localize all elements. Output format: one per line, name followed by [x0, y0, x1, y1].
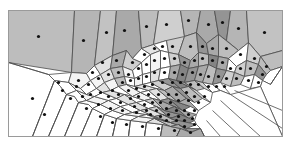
- site-point: [117, 93, 120, 96]
- site-point: [211, 59, 214, 62]
- site-point: [99, 115, 102, 118]
- voronoi-cell: [9, 11, 75, 73]
- voronoi-cell: [145, 123, 163, 137]
- site-point: [193, 59, 196, 62]
- site-point: [143, 53, 146, 56]
- site-point: [151, 83, 154, 86]
- site-point: [187, 99, 190, 102]
- site-point: [197, 101, 200, 104]
- site-point: [237, 27, 240, 30]
- site-point: [145, 75, 148, 78]
- site-point: [165, 23, 168, 26]
- site-point: [149, 113, 152, 116]
- site-point: [161, 81, 164, 84]
- site-point: [253, 57, 256, 60]
- site-point: [147, 93, 150, 96]
- site-point: [173, 129, 176, 132]
- site-point: [193, 95, 196, 98]
- site-point: [97, 103, 100, 106]
- site-point: [187, 19, 190, 22]
- site-point: [81, 95, 84, 98]
- site-point: [153, 71, 156, 74]
- site-point: [133, 105, 136, 108]
- site-point: [171, 45, 174, 48]
- site-point: [223, 85, 226, 88]
- site-point: [163, 71, 166, 74]
- site-point: [173, 57, 176, 60]
- site-point: [107, 73, 110, 76]
- site-point: [187, 113, 190, 116]
- site-point: [263, 31, 266, 34]
- site-point: [207, 85, 210, 88]
- site-point: [175, 93, 178, 96]
- site-point: [145, 25, 148, 28]
- site-point: [207, 23, 210, 26]
- site-point: [249, 67, 252, 70]
- site-point: [169, 101, 172, 104]
- site-point: [61, 89, 64, 92]
- site-point: [77, 79, 80, 82]
- site-point: [123, 29, 126, 32]
- site-point: [189, 83, 192, 86]
- site-point: [119, 101, 122, 104]
- site-point: [159, 115, 162, 118]
- site-point: [161, 45, 164, 48]
- plot-area: [9, 11, 283, 137]
- voronoi-cell: [129, 121, 147, 137]
- site-point: [151, 101, 154, 104]
- site-point: [121, 81, 124, 84]
- site-point: [145, 63, 148, 66]
- site-point: [239, 53, 242, 56]
- site-point: [197, 83, 200, 86]
- site-point: [167, 93, 170, 96]
- site-point: [177, 99, 180, 102]
- site-point: [229, 67, 232, 70]
- site-point: [69, 97, 72, 100]
- site-point: [177, 115, 180, 118]
- site-point: [183, 109, 186, 112]
- site-point: [193, 109, 196, 112]
- site-point: [107, 95, 110, 98]
- site-point: [201, 45, 204, 48]
- site-point: [115, 59, 118, 62]
- site-point: [189, 131, 192, 134]
- site-point: [217, 75, 220, 78]
- site-point: [127, 73, 130, 76]
- site-point: [91, 71, 94, 74]
- site-point: [247, 79, 250, 82]
- site-point: [127, 89, 130, 92]
- site-point: [109, 107, 112, 110]
- site-point: [143, 103, 146, 106]
- site-point: [43, 113, 46, 116]
- site-point: [75, 85, 78, 88]
- site-point: [183, 125, 186, 128]
- site-point: [87, 83, 90, 86]
- site-point: [211, 47, 214, 50]
- site-point: [101, 61, 104, 64]
- site-point: [185, 91, 188, 94]
- site-point: [163, 57, 166, 60]
- site-point: [175, 119, 178, 122]
- site-point: [221, 61, 224, 64]
- site-point: [261, 73, 264, 76]
- site-point: [157, 93, 160, 96]
- site-point: [31, 97, 34, 100]
- site-point: [145, 109, 148, 112]
- site-point: [111, 89, 114, 92]
- site-point: [137, 67, 140, 70]
- site-point: [201, 57, 204, 60]
- site-point: [183, 61, 186, 64]
- site-point: [85, 107, 88, 110]
- site-point: [173, 71, 176, 74]
- site-point: [155, 109, 158, 112]
- site-point: [99, 91, 102, 94]
- site-point: [257, 81, 260, 84]
- site-point: [225, 47, 228, 50]
- site-point: [111, 121, 114, 124]
- site-point: [57, 81, 60, 84]
- site-point: [239, 67, 242, 70]
- site-point: [265, 65, 268, 68]
- site-point: [179, 81, 182, 84]
- site-point: [135, 111, 138, 114]
- site-point: [137, 77, 140, 80]
